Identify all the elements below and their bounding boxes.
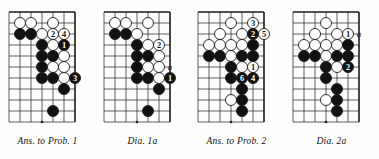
black-stone[interactable] bbox=[226, 62, 237, 73]
white-stone[interactable] bbox=[59, 51, 70, 62]
diagram-caption: Dia. 2a bbox=[284, 136, 379, 146]
black-stone[interactable] bbox=[37, 62, 48, 73]
white-stone[interactable] bbox=[204, 40, 215, 51]
white-stone[interactable] bbox=[15, 18, 26, 29]
black-stone[interactable] bbox=[132, 51, 143, 62]
black-stone[interactable] bbox=[343, 51, 354, 62]
black-stone[interactable] bbox=[332, 106, 343, 117]
black-stone[interactable] bbox=[132, 40, 143, 51]
diagram-caption: Ans. to Prob. 1 bbox=[0, 136, 95, 146]
white-stone[interactable] bbox=[310, 29, 321, 40]
white-stone[interactable] bbox=[321, 18, 332, 29]
black-stone[interactable] bbox=[132, 73, 143, 84]
black-stone[interactable] bbox=[332, 95, 343, 106]
white-stone[interactable] bbox=[37, 29, 48, 40]
black-stone[interactable] bbox=[237, 106, 248, 117]
move-number-label: 3 bbox=[73, 74, 77, 83]
white-stone[interactable] bbox=[321, 95, 332, 106]
move-number-label: 6 bbox=[240, 74, 244, 83]
black-stone[interactable] bbox=[237, 51, 248, 62]
white-stone[interactable] bbox=[226, 18, 237, 29]
black-stone[interactable] bbox=[226, 73, 237, 84]
go-board[interactable]: a21 bbox=[95, 0, 190, 136]
black-stone[interactable] bbox=[15, 29, 26, 40]
white-stone[interactable] bbox=[132, 29, 143, 40]
white-stone[interactable] bbox=[332, 40, 343, 51]
move-number-label: 1 bbox=[251, 63, 255, 72]
white-stone[interactable] bbox=[48, 18, 59, 29]
black-stone[interactable] bbox=[26, 29, 37, 40]
move-number-label: 1 bbox=[62, 41, 66, 50]
black-stone[interactable] bbox=[143, 106, 154, 117]
move-number-label: 2 bbox=[346, 63, 350, 72]
black-stone[interactable] bbox=[143, 51, 154, 62]
white-stone[interactable] bbox=[26, 18, 37, 29]
board-point-marker: a bbox=[168, 62, 173, 72]
white-stone[interactable] bbox=[215, 29, 226, 40]
white-stone[interactable] bbox=[237, 40, 248, 51]
white-stone[interactable] bbox=[215, 40, 226, 51]
black-stone[interactable] bbox=[237, 84, 248, 95]
black-stone[interactable] bbox=[132, 62, 143, 73]
white-stone[interactable] bbox=[332, 62, 343, 73]
white-stone[interactable] bbox=[121, 18, 132, 29]
go-board-grid: 325164 bbox=[189, 0, 284, 136]
white-stone[interactable] bbox=[226, 51, 237, 62]
black-stone[interactable] bbox=[310, 51, 321, 62]
white-stone[interactable] bbox=[332, 29, 343, 40]
black-stone[interactable] bbox=[299, 51, 310, 62]
white-stone[interactable] bbox=[321, 51, 332, 62]
black-stone[interactable] bbox=[321, 73, 332, 84]
go-diagram-ans-to-prob-2: 325164 Ans. to Prob. 2 bbox=[189, 0, 284, 159]
white-stone[interactable] bbox=[48, 62, 59, 73]
black-stone[interactable] bbox=[215, 51, 226, 62]
go-diagram-sheet: 2413 Ans. to Prob. 1 a21 Dia. 1a 325164 … bbox=[0, 0, 379, 159]
white-stone[interactable] bbox=[154, 62, 165, 73]
go-board[interactable]: 2413 bbox=[0, 0, 95, 136]
black-stone[interactable] bbox=[343, 40, 354, 51]
white-stone[interactable] bbox=[59, 62, 70, 73]
white-stone[interactable] bbox=[237, 29, 248, 40]
go-diagram-dia-1a: a21 Dia. 1a bbox=[95, 0, 190, 159]
go-board[interactable]: a12 bbox=[284, 0, 379, 136]
white-stone[interactable] bbox=[237, 62, 248, 73]
black-stone[interactable] bbox=[204, 51, 215, 62]
move-number-label: 1 bbox=[168, 74, 172, 83]
black-stone[interactable] bbox=[248, 51, 259, 62]
black-stone[interactable] bbox=[332, 51, 343, 62]
black-stone[interactable] bbox=[121, 29, 132, 40]
black-stone[interactable] bbox=[154, 84, 165, 95]
black-stone[interactable] bbox=[143, 73, 154, 84]
black-stone[interactable] bbox=[37, 40, 48, 51]
move-number-label: 3 bbox=[251, 19, 255, 28]
black-stone[interactable] bbox=[59, 84, 70, 95]
black-stone[interactable] bbox=[48, 106, 59, 117]
white-stone[interactable] bbox=[59, 73, 70, 84]
board-point-marker: a bbox=[357, 29, 362, 39]
go-board[interactable]: 325164 bbox=[189, 0, 284, 136]
white-stone[interactable] bbox=[154, 51, 165, 62]
white-stone[interactable] bbox=[299, 40, 310, 51]
white-stone[interactable] bbox=[143, 40, 154, 51]
white-stone[interactable] bbox=[143, 62, 154, 73]
white-stone[interactable] bbox=[154, 73, 165, 84]
white-stone[interactable] bbox=[48, 40, 59, 51]
black-stone[interactable] bbox=[48, 51, 59, 62]
black-stone[interactable] bbox=[237, 95, 248, 106]
white-stone[interactable] bbox=[321, 40, 332, 51]
go-diagram-ans-to-prob-1: 2413 Ans. to Prob. 1 bbox=[0, 0, 95, 159]
black-stone[interactable] bbox=[332, 84, 343, 95]
black-stone[interactable] bbox=[48, 73, 59, 84]
white-stone[interactable] bbox=[226, 95, 237, 106]
white-stone[interactable] bbox=[226, 40, 237, 51]
white-stone[interactable] bbox=[143, 18, 154, 29]
white-stone[interactable] bbox=[110, 18, 121, 29]
black-stone[interactable] bbox=[321, 62, 332, 73]
move-number-label: 1 bbox=[346, 30, 350, 39]
black-stone[interactable] bbox=[37, 73, 48, 84]
black-stone[interactable] bbox=[37, 51, 48, 62]
black-stone[interactable] bbox=[248, 40, 259, 51]
black-stone[interactable] bbox=[110, 29, 121, 40]
white-stone[interactable] bbox=[310, 40, 321, 51]
move-number-label: 2 bbox=[157, 41, 161, 50]
